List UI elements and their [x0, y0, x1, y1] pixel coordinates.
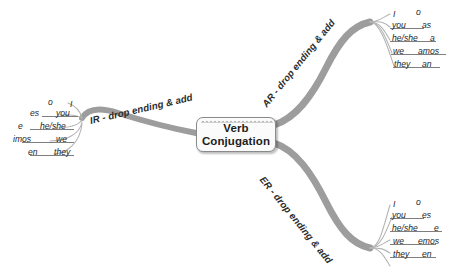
ir-pronoun-2: he/she — [40, 121, 66, 131]
er-pronoun-4: they — [393, 249, 409, 259]
er-ending-0: o — [416, 197, 421, 207]
er-pronoun-1: you — [392, 210, 406, 220]
ir-pronoun-4: they — [54, 147, 70, 157]
ir-ending-0: o — [48, 97, 53, 107]
central-node[interactable]: Verb Conjugation — [196, 117, 276, 152]
er-pronoun-3: we — [393, 236, 404, 246]
central-node-title-line2: Conjugation — [202, 135, 270, 148]
ir-ending-4: en — [28, 147, 38, 157]
perforation-icon — [201, 120, 273, 124]
ar-pronoun-4: they — [394, 59, 410, 69]
branch-path-er — [274, 143, 370, 248]
ar-pronoun-3: we — [393, 46, 404, 56]
ar-ending-1: as — [422, 20, 431, 30]
ar-ending-4: an — [422, 59, 432, 69]
ir-ending-2: e — [18, 121, 23, 131]
ar-pronoun-1: you — [392, 20, 406, 30]
er-pronoun-0: I — [393, 199, 395, 209]
er-ending-2: e — [434, 223, 439, 233]
er-ending-1: es — [422, 210, 431, 220]
ar-ending-0: o — [416, 7, 421, 17]
ar-pronoun-0: I — [393, 9, 395, 19]
er-pronoun-2: he/she — [392, 223, 418, 233]
ir-ending-1: es — [30, 108, 39, 118]
ir-pronoun-1: you — [56, 108, 70, 118]
ir-pronoun-0: I — [70, 99, 72, 109]
ir-ending-3: imos — [13, 134, 31, 144]
ar-pronoun-2: he/she — [392, 33, 418, 43]
er-ending-3: emos — [418, 236, 439, 246]
ir-pronoun-3: we — [56, 134, 67, 144]
er-ending-4: en — [422, 249, 432, 259]
ar-ending-2: a — [430, 33, 435, 43]
ar-ending-3: amos — [418, 46, 439, 56]
